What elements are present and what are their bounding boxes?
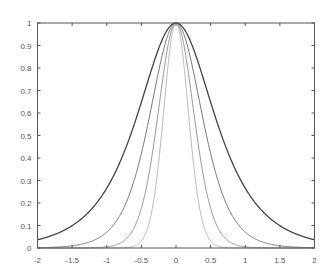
y-tick-label: 0.1 [20,222,32,231]
x-tick-label: 0 [174,256,179,265]
x-tick-label: 0.5 [205,256,217,265]
y-tick-label: 0.3 [20,177,32,186]
y-tick-label: 0.5 [20,132,32,141]
x-tick-label: -2 [34,256,42,265]
y-tick-label: 0.4 [20,154,32,163]
y-tick-label: 0.6 [20,109,32,118]
y-tick-label: 0.2 [20,199,32,208]
chart-background [0,0,328,277]
x-tick-label: 1 [243,256,248,265]
x-tick-label: -1.5 [65,256,79,265]
y-tick-label: 0.7 [20,87,32,96]
x-tick-label: -1 [103,256,111,265]
x-tick-label: 1.5 [274,256,286,265]
x-tick-label: 2 [312,256,317,265]
x-tick-label: -0.5 [134,256,148,265]
x-axis-tick-labels: -2-1.5-1-0.500.511.52 [34,256,317,265]
y-tick-label: 1 [27,19,32,28]
y-tick-label: 0 [27,244,32,253]
y-tick-label: 0.9 [20,42,32,51]
line-chart: -2-1.5-1-0.500.511.52 00.10.20.30.40.50.… [0,0,328,277]
y-tick-label: 0.8 [20,64,32,73]
